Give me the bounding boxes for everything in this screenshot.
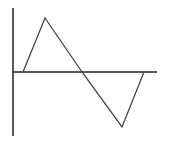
waveform-diagram <box>0 0 170 143</box>
